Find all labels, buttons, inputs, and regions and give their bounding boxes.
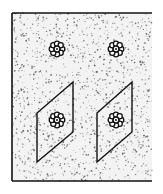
stippled-field [12,13,152,181]
flower-top-left-icon [49,41,65,57]
flower-bottom-right-icon [108,112,124,128]
stippled-field-diagram [0,0,163,194]
flower-top-right-icon [108,41,124,57]
flower-bottom-left-icon [49,112,65,128]
diagram-canvas [0,0,163,194]
